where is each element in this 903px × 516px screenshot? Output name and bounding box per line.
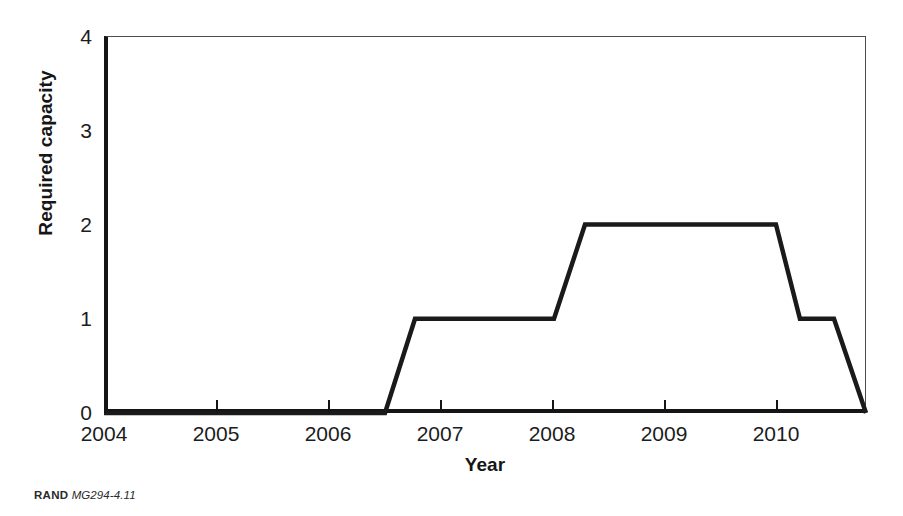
x-tick-label-2007: 2007	[380, 423, 500, 444]
x-tick-mark-2008	[552, 400, 554, 413]
y-axis-title: Required capacity	[35, 33, 57, 273]
x-tick-mark-2006	[328, 400, 330, 413]
y-tick-label-2: 2	[52, 214, 92, 235]
x-axis-title: Year	[405, 454, 565, 476]
credit-document-id: MG294-4.11	[72, 489, 136, 501]
y-tick-label-3: 3	[52, 120, 92, 141]
x-tick-label-2004: 2004	[44, 423, 164, 444]
x-tick-mark-2007	[440, 400, 442, 413]
credit-organization: RAND	[34, 489, 68, 501]
series-line-required-capacity	[104, 225, 866, 414]
plot-area	[104, 36, 866, 413]
figure-credit-line: RAND MG294-4.11	[34, 489, 136, 501]
y-tick-label-0: 0	[52, 402, 92, 423]
y-tick-label-4: 4	[52, 26, 92, 47]
x-tick-label-2006: 2006	[268, 423, 388, 444]
x-tick-mark-2004	[104, 400, 106, 413]
x-tick-label-2009: 2009	[604, 423, 724, 444]
x-tick-label-2010: 2010	[716, 423, 836, 444]
y-tick-label-1: 1	[52, 308, 92, 329]
x-tick-mark-2010	[776, 400, 778, 413]
chart-figure: Required capacity 4 3 2 1 0 2004 2005 20…	[0, 0, 903, 516]
x-tick-mark-2009	[664, 400, 666, 413]
x-tick-mark-2005	[216, 400, 218, 413]
x-tick-label-2008: 2008	[492, 423, 612, 444]
x-tick-label-2005: 2005	[156, 423, 276, 444]
